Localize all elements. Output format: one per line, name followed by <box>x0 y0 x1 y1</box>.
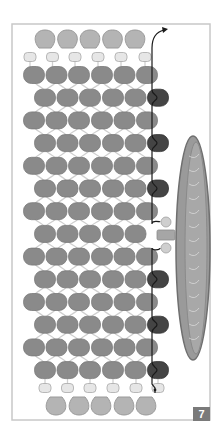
drop-bead <box>69 397 89 415</box>
bead <box>80 180 101 197</box>
bead <box>57 135 78 152</box>
bead <box>137 339 158 356</box>
seed-bead <box>24 53 36 62</box>
bead <box>137 112 158 129</box>
bead <box>125 180 146 197</box>
bead <box>35 89 56 106</box>
accent-bead-dark <box>148 316 169 333</box>
seed-bead <box>47 53 59 62</box>
bead <box>137 157 158 174</box>
bead <box>80 89 101 106</box>
bead <box>24 339 45 356</box>
bead <box>69 67 90 84</box>
bead <box>46 67 67 84</box>
accent-bead-dark <box>148 362 169 379</box>
bead <box>35 135 56 152</box>
bead <box>92 203 113 220</box>
accent-bead-dark <box>148 180 169 197</box>
seed-bead <box>161 243 171 253</box>
drop-bead <box>136 397 156 415</box>
bead <box>103 89 124 106</box>
coin-pendant <box>176 136 210 360</box>
bead <box>24 67 45 84</box>
seed-bead <box>107 384 119 393</box>
bead <box>92 112 113 129</box>
bead <box>57 89 78 106</box>
bead <box>69 339 90 356</box>
bead <box>24 294 45 311</box>
drop-bead <box>125 30 145 48</box>
bead <box>125 135 146 152</box>
bead <box>69 248 90 265</box>
bead <box>92 248 113 265</box>
bead <box>57 225 78 242</box>
bead <box>80 271 101 288</box>
bead <box>46 157 67 174</box>
bead <box>114 294 135 311</box>
bead <box>92 339 113 356</box>
bead <box>46 294 67 311</box>
drop-bead <box>91 397 111 415</box>
seed-bead <box>39 384 51 393</box>
seed-bead <box>62 384 74 393</box>
bead <box>103 362 124 379</box>
accent-bead-dark <box>148 89 169 106</box>
bead <box>35 271 56 288</box>
bead <box>24 157 45 174</box>
accent-bead-dark <box>148 135 169 152</box>
drop-bead <box>80 30 100 48</box>
seed-bead <box>115 53 127 62</box>
bead <box>69 157 90 174</box>
bead <box>80 135 101 152</box>
bead <box>80 316 101 333</box>
bead <box>35 180 56 197</box>
bead <box>137 203 158 220</box>
bead <box>69 203 90 220</box>
bead <box>46 112 67 129</box>
bead <box>46 339 67 356</box>
bead <box>114 203 135 220</box>
bead <box>103 135 124 152</box>
seed-bead <box>130 384 142 393</box>
step-number-badge: 7 <box>193 407 210 421</box>
bead <box>92 294 113 311</box>
bead <box>114 67 135 84</box>
bead <box>114 157 135 174</box>
bead <box>92 157 113 174</box>
bead <box>125 316 146 333</box>
bead <box>46 203 67 220</box>
bead <box>114 248 135 265</box>
bead <box>103 225 124 242</box>
drop-bead <box>103 30 123 48</box>
thread-start-dot <box>154 389 157 392</box>
accent-bead-dark <box>148 271 169 288</box>
bead <box>125 271 146 288</box>
bead <box>137 248 158 265</box>
bead <box>80 362 101 379</box>
bead <box>46 248 67 265</box>
bead <box>125 89 146 106</box>
seed-bead <box>92 53 104 62</box>
bead <box>103 180 124 197</box>
bead <box>114 112 135 129</box>
drop-bead <box>46 397 66 415</box>
bead <box>69 294 90 311</box>
seed-bead <box>69 53 81 62</box>
bead <box>103 316 124 333</box>
bead <box>137 67 158 84</box>
bead <box>57 271 78 288</box>
seed-bead <box>84 384 96 393</box>
drop-bead <box>58 30 78 48</box>
bead <box>35 225 56 242</box>
bead <box>80 225 101 242</box>
bead <box>35 362 56 379</box>
seed-bead <box>161 217 171 227</box>
bead <box>92 67 113 84</box>
bead <box>57 316 78 333</box>
bead <box>24 248 45 265</box>
seed-bead <box>139 53 151 62</box>
drop-bead <box>35 30 55 48</box>
bead <box>69 112 90 129</box>
seed-bead <box>152 384 164 393</box>
bead <box>137 294 158 311</box>
